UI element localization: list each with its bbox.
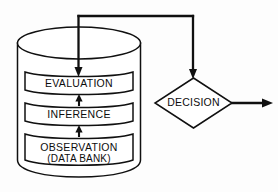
inference-box-label: INFERENCE — [47, 108, 110, 120]
observation-box-sublabel: (DATA BANK) — [47, 153, 111, 164]
decision-label: DECISION — [167, 96, 219, 108]
observation-box-label: OBSERVATION — [40, 141, 117, 153]
diagram-canvas: EVALUATION INFERENCE OBSERVATION (DATA B… — [0, 0, 278, 192]
decision-output-arrow — [231, 99, 273, 108]
evaluation-box-label: EVALUATION — [45, 77, 113, 89]
diagram-svg: EVALUATION INFERENCE OBSERVATION (DATA B… — [0, 0, 278, 192]
decision-diamond: DECISION — [155, 78, 232, 128]
observation-box: OBSERVATION (DATA BANK) — [25, 134, 133, 165]
